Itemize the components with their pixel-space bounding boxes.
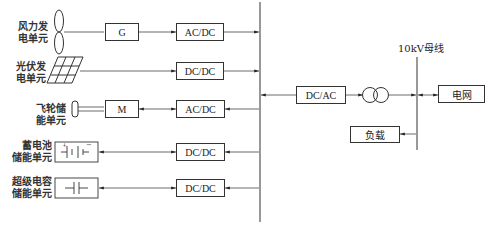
connection-lines: + −: [0, 0, 496, 237]
battery-dcdc-converter: DC/DC: [176, 143, 225, 161]
svg-text:−: −: [86, 141, 92, 149]
pv-dcdc-converter: DC/DC: [176, 62, 224, 80]
flywheel-acdc-converter: AC/DC: [176, 100, 225, 118]
motor-box: M: [105, 100, 139, 118]
svg-text:+: +: [62, 141, 67, 148]
battery-unit-label: 蓄电池储能单元: [2, 140, 52, 164]
generator-box: G: [105, 23, 139, 41]
wind-acdc-converter: AC/DC: [176, 23, 224, 41]
wind-unit-label: 风力发电单元: [8, 21, 48, 45]
dcac-inverter: DC/AC: [296, 86, 346, 104]
bus-label: 10kV母线: [398, 40, 444, 55]
load-box: 负载: [350, 126, 400, 143]
flywheel-unit-label: 飞轮储能单元: [18, 103, 66, 127]
grid-box: 电网: [438, 85, 485, 103]
pv-unit-label: 光伏发电单元: [0, 61, 46, 85]
supercap-unit-label: 超级电容储能单元: [2, 176, 52, 200]
supercap-dcdc-converter: DC/DC: [176, 179, 225, 197]
